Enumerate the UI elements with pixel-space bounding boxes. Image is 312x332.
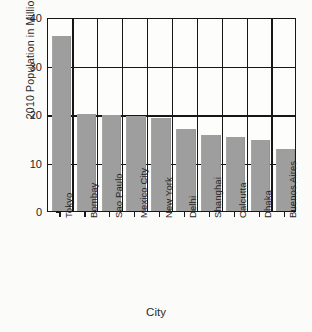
x-tick-label-bombay: Bombay [88, 183, 99, 218]
y-tick-label-30: 30 [16, 61, 42, 73]
x-tick-label-tokyo: Tokyo [63, 193, 74, 218]
y-tick-label-0: 0 [16, 206, 42, 218]
gridline-x-1 [72, 19, 73, 211]
y-axis-tick-labels: 010203040 [14, 0, 42, 332]
chart-figure: 2010 Population in Millions 010203040 To… [0, 0, 312, 332]
x-tick-label-calcutta: Calcutta [237, 182, 248, 218]
x-tick-label-delhi: Delhi [187, 196, 198, 218]
x-tick-label-shanghai: Shanghai [212, 177, 223, 218]
y-tick-label-10: 10 [16, 158, 42, 170]
x-tick-label-dhaka: Dhaka [262, 190, 273, 218]
x-axis-tick-labels: TokyoBombaySao PauloMexico CityNew YorkD… [47, 216, 296, 304]
gridline-x-9 [271, 19, 272, 211]
x-tick-label-sao-paulo: Sao Paulo [113, 173, 124, 218]
x-tick-label-new-york: New York [163, 177, 174, 218]
y-tick-label-20: 20 [16, 109, 42, 121]
y-tick-label-40: 40 [16, 12, 42, 24]
gridline-x-6 [197, 19, 198, 211]
x-axis-title: City [0, 306, 312, 318]
bar-tokyo [52, 36, 71, 211]
x-tick-label-mexico-city: Mexico City [138, 168, 149, 218]
x-tick-label-buenos-aires: Buenos Aires [287, 161, 298, 218]
